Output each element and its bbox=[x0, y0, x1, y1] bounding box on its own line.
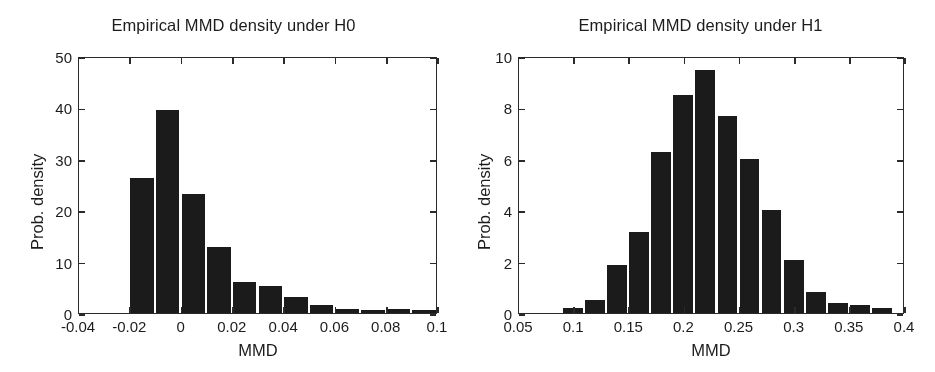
y-tick-mark-right bbox=[430, 57, 436, 59]
x-tick-mark bbox=[335, 307, 337, 313]
y-tick-mark bbox=[79, 109, 85, 111]
x-tick-label: 0.1 bbox=[563, 318, 584, 335]
y-tick-label: 2 bbox=[472, 254, 512, 271]
histogram-bar bbox=[673, 95, 693, 313]
y-tick-mark-right bbox=[897, 160, 903, 162]
y-tick-label: 8 bbox=[472, 100, 512, 117]
histogram-bar bbox=[335, 309, 358, 313]
x-tick-mark bbox=[283, 307, 285, 313]
y-tick-mark-right bbox=[897, 109, 903, 111]
x-tick-label: 0.2 bbox=[673, 318, 694, 335]
y-tick-mark-right bbox=[897, 57, 903, 59]
figure-two-histograms: Empirical MMD density under H0 Prob. den… bbox=[0, 0, 935, 372]
x-tick-mark bbox=[849, 307, 851, 313]
histogram-bar bbox=[207, 247, 230, 313]
histogram-bar bbox=[361, 310, 384, 313]
bar-series-h0 bbox=[79, 58, 436, 313]
x-tick-label: 0.08 bbox=[371, 318, 400, 335]
y-tick-mark bbox=[519, 263, 525, 265]
histogram-bar bbox=[806, 292, 826, 313]
panel-h1: Empirical MMD density under H1 Prob. den… bbox=[467, 0, 934, 372]
x-tick-mark-top bbox=[181, 58, 183, 64]
histogram-bar bbox=[310, 305, 333, 313]
y-tick-label: 6 bbox=[472, 151, 512, 168]
x-tick-label: 0.06 bbox=[320, 318, 349, 335]
y-tick-mark-right bbox=[897, 211, 903, 213]
x-tick-label: -0.02 bbox=[112, 318, 146, 335]
histogram-bar bbox=[156, 110, 179, 313]
x-axis-title-h1: MMD bbox=[691, 341, 730, 360]
histogram-bar bbox=[762, 210, 782, 313]
histogram-bar bbox=[651, 152, 671, 313]
x-tick-mark bbox=[437, 307, 439, 313]
plot-area-h1 bbox=[518, 57, 904, 314]
y-tick-mark bbox=[79, 263, 85, 265]
x-tick-mark-top bbox=[684, 58, 686, 64]
y-tick-mark-right bbox=[430, 263, 436, 265]
histogram-bar bbox=[607, 265, 627, 313]
x-tick-mark-top bbox=[573, 58, 575, 64]
y-tick-label: 4 bbox=[472, 203, 512, 220]
x-tick-mark bbox=[232, 307, 234, 313]
y-tick-mark-right bbox=[897, 314, 903, 316]
x-tick-mark-top bbox=[129, 58, 131, 64]
y-tick-label: 10 bbox=[472, 49, 512, 66]
x-tick-label: 0.04 bbox=[269, 318, 298, 335]
x-tick-label: 0.1 bbox=[427, 318, 448, 335]
x-tick-label: 0.15 bbox=[614, 318, 643, 335]
x-tick-label: 0.25 bbox=[724, 318, 753, 335]
x-tick-label: -0.04 bbox=[61, 318, 95, 335]
y-tick-mark bbox=[79, 57, 85, 59]
bar-series-h1 bbox=[519, 58, 903, 313]
x-tick-mark-top bbox=[794, 58, 796, 64]
x-tick-mark bbox=[628, 307, 630, 313]
x-tick-mark-top bbox=[437, 58, 439, 64]
histogram-bar bbox=[259, 286, 282, 313]
y-tick-mark-right bbox=[430, 211, 436, 213]
x-tick-mark bbox=[794, 307, 796, 313]
histogram-bar bbox=[629, 232, 649, 313]
histogram-bar bbox=[850, 305, 870, 313]
x-tick-mark bbox=[386, 307, 388, 313]
y-tick-label: 40 bbox=[32, 100, 72, 117]
x-tick-mark-top bbox=[628, 58, 630, 64]
histogram-bar bbox=[872, 308, 892, 313]
y-tick-mark-right bbox=[430, 314, 436, 316]
y-tick-mark bbox=[79, 211, 85, 213]
chart-title-h1: Empirical MMD density under H1 bbox=[467, 16, 934, 35]
x-tick-label: 0.02 bbox=[217, 318, 246, 335]
histogram-bar bbox=[585, 300, 605, 313]
histogram-bar bbox=[387, 309, 410, 313]
histogram-bar bbox=[412, 310, 435, 313]
y-tick-label: 30 bbox=[32, 151, 72, 168]
x-tick-mark-top bbox=[739, 58, 741, 64]
y-tick-mark bbox=[519, 211, 525, 213]
x-tick-label: 0.3 bbox=[783, 318, 804, 335]
x-tick-mark-top bbox=[904, 58, 906, 64]
y-tick-mark bbox=[79, 160, 85, 162]
histogram-bar bbox=[784, 260, 804, 313]
y-tick-mark bbox=[519, 160, 525, 162]
y-tick-label: 20 bbox=[32, 203, 72, 220]
chart-title-h0: Empirical MMD density under H0 bbox=[0, 16, 467, 35]
x-tick-mark bbox=[904, 307, 906, 313]
y-tick-mark-right bbox=[897, 263, 903, 265]
x-axis-title-h0: MMD bbox=[238, 341, 277, 360]
histogram-bar bbox=[695, 70, 715, 313]
y-tick-label: 10 bbox=[32, 254, 72, 271]
x-tick-mark bbox=[129, 307, 131, 313]
y-tick-label: 50 bbox=[32, 49, 72, 66]
histogram-bar bbox=[740, 159, 760, 313]
x-tick-label: 0 bbox=[176, 318, 184, 335]
histogram-bar bbox=[182, 194, 205, 313]
x-tick-mark bbox=[181, 307, 183, 313]
y-tick-mark-right bbox=[430, 160, 436, 162]
panel-h0: Empirical MMD density under H0 Prob. den… bbox=[0, 0, 467, 372]
y-tick-mark bbox=[519, 109, 525, 111]
histogram-bar bbox=[233, 282, 256, 313]
x-tick-mark-top bbox=[232, 58, 234, 64]
y-tick-mark bbox=[79, 314, 85, 316]
x-tick-mark-top bbox=[335, 58, 337, 64]
x-tick-mark bbox=[739, 307, 741, 313]
x-tick-label: 0.05 bbox=[503, 318, 532, 335]
